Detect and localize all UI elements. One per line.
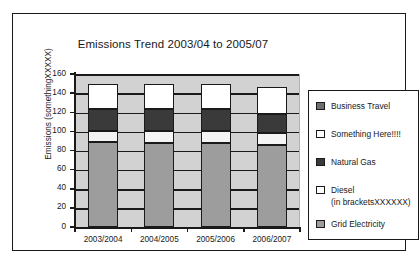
y-tick-mark: [70, 112, 75, 114]
y-tick-label: 80: [34, 145, 66, 154]
x-tick-label: 2005/2006: [186, 235, 246, 244]
bar-segment: [144, 84, 174, 110]
bar-segment: [88, 142, 118, 227]
y-tick-label: 160: [34, 69, 66, 78]
bar-column: [88, 74, 118, 227]
y-tick-label: 0: [34, 222, 66, 231]
x-tick-label: 2004/2005: [129, 235, 189, 244]
legend-label: Natural Gas: [331, 157, 376, 168]
legend-item[interactable]: Something Here!!!!: [316, 129, 401, 140]
chart-frame: Emissions Trend 2003/04 to 2005/07 Emiss…: [12, 13, 406, 251]
x-tick-mark: [74, 227, 76, 232]
y-tick-mark: [70, 169, 75, 171]
x-tick-mark: [299, 227, 301, 232]
x-tick-label: 2006/2007: [242, 235, 302, 244]
legend: Business TravelSomething Here!!!!Natural…: [308, 90, 419, 240]
bar-segment: [144, 143, 174, 227]
legend-item[interactable]: Grid Electricity: [316, 219, 385, 230]
legend-label: Something Here!!!!: [331, 129, 401, 140]
bar-segment: [88, 109, 118, 131]
legend-item[interactable]: Natural Gas: [316, 157, 376, 168]
legend-swatch-something-here: [316, 130, 325, 138]
bar-segment: [257, 145, 287, 227]
legend-item[interactable]: (in bracketsXXXXXX): [316, 197, 411, 208]
bar-segment: [257, 87, 287, 114]
bar-segment: [144, 131, 174, 142]
y-tick-label: 100: [34, 126, 66, 135]
y-tick-label: 20: [34, 202, 66, 211]
legend-item[interactable]: Diesel: [316, 185, 354, 196]
bar-segment: [144, 109, 174, 131]
bar-segment: [257, 114, 287, 133]
bar-segment: [201, 109, 231, 131]
legend-label: Diesel: [331, 185, 354, 196]
legend-label: (in bracketsXXXXXX): [331, 197, 411, 208]
y-tick-mark: [70, 188, 75, 190]
bar-column: [257, 74, 287, 227]
bar-segment: [88, 131, 118, 142]
y-tick-label: 40: [34, 183, 66, 192]
bar-segment: [201, 143, 231, 227]
y-tick-label: 140: [34, 88, 66, 97]
bar-segment: [257, 133, 287, 144]
legend-swatch-diesel: [316, 186, 325, 194]
legend-swatch-business-travel: [316, 102, 325, 110]
y-tick-label: 120: [34, 107, 66, 116]
legend-label: Business Travel: [331, 101, 390, 112]
x-tick-mark: [131, 227, 133, 232]
bar-column: [201, 74, 231, 227]
chart-title: Emissions Trend 2003/04 to 2005/07: [33, 38, 313, 50]
legend-swatch-grid-electricity: [316, 220, 325, 228]
bar-segment: [201, 84, 231, 110]
y-tick-mark: [70, 92, 75, 94]
y-tick-label: 60: [34, 164, 66, 173]
bar-column: [144, 74, 174, 227]
screenshot-root: Emissions Trend 2003/04 to 2005/07 Emiss…: [0, 0, 419, 265]
bar-segment: [201, 131, 231, 142]
legend-item[interactable]: Business Travel: [316, 101, 390, 112]
legend-label: Grid Electricity: [331, 219, 385, 230]
x-tick-mark: [187, 227, 189, 232]
y-tick-mark: [70, 150, 75, 152]
bar-segment: [88, 84, 118, 110]
legend-swatch-spacer: [316, 198, 325, 206]
y-tick-mark: [70, 131, 75, 133]
legend-swatch-natural-gas: [316, 158, 325, 166]
x-tick-mark: [243, 227, 245, 232]
x-tick-label: 2003/2004: [73, 235, 133, 244]
y-tick-mark: [70, 207, 75, 209]
y-tick-mark: [70, 73, 75, 75]
